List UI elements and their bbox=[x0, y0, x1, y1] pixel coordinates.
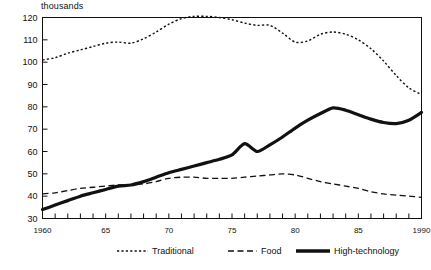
x-tick-label: 75 bbox=[228, 226, 237, 235]
y-tick-label: 50 bbox=[27, 169, 37, 179]
legend-label: Food bbox=[261, 246, 282, 256]
y-tick-label: 110 bbox=[23, 35, 37, 45]
y-tick-label: 100 bbox=[22, 57, 37, 67]
legend-label: High-technology bbox=[334, 246, 400, 256]
y-tick-label: 90 bbox=[27, 80, 37, 90]
y-axis-labels: 30405060708090100110120 bbox=[22, 13, 37, 224]
line-chart: thousands 30405060708090100110120 196065… bbox=[0, 0, 431, 270]
y-tick-label: 80 bbox=[27, 102, 37, 112]
y-tick-label: 70 bbox=[27, 124, 37, 134]
y-tick-label: 120 bbox=[22, 13, 37, 23]
x-axis-ticks bbox=[55, 214, 409, 219]
series-layer bbox=[43, 16, 422, 209]
series-line-traditional bbox=[43, 16, 422, 94]
x-tick-label: 80 bbox=[291, 226, 300, 235]
chart-canvas: 30405060708090100110120 1960657075808519… bbox=[0, 0, 431, 270]
legend-label: Traditional bbox=[152, 246, 194, 256]
y-tick-label: 30 bbox=[27, 214, 37, 224]
x-tick-label: 1990 bbox=[413, 226, 431, 235]
x-axis-labels: 196065707580851990 bbox=[34, 226, 431, 235]
x-tick-label: 70 bbox=[164, 226, 173, 235]
y-tick-label: 60 bbox=[27, 147, 37, 157]
x-tick-label: 65 bbox=[101, 226, 110, 235]
x-tick-label: 1960 bbox=[34, 226, 52, 235]
series-line-high-technology bbox=[43, 108, 422, 210]
x-tick-label: 85 bbox=[354, 226, 363, 235]
series-line-food bbox=[43, 174, 422, 197]
chart-legend: TraditionalFoodHigh-technology bbox=[117, 246, 400, 256]
y-axis-ticks bbox=[43, 40, 48, 196]
y-tick-label: 40 bbox=[27, 191, 37, 201]
